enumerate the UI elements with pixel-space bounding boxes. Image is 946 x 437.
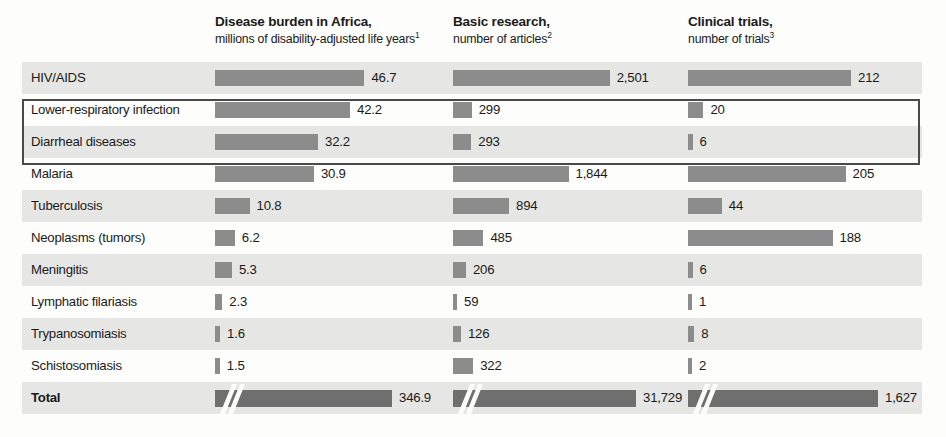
- cell-burden: 10.8: [215, 190, 453, 222]
- cell-trials: 2: [688, 350, 922, 382]
- cell-research: 322: [453, 350, 688, 382]
- bar-burden: [215, 70, 364, 86]
- row-label: Diarrheal diseases: [31, 126, 136, 158]
- bar-value-burden: 46.7: [371, 62, 396, 94]
- bar-value-burden: 1.5: [227, 350, 245, 382]
- cell-burden: 5.3: [215, 254, 453, 286]
- bar-burden: [215, 230, 235, 246]
- bar-burden: [215, 326, 220, 342]
- row-label: HIV/AIDS: [31, 62, 85, 94]
- cell-burden: 346.9: [215, 382, 453, 414]
- cell-trials: 1: [688, 286, 922, 318]
- column-header-research: Basic research, number of articles2: [453, 14, 552, 47]
- bar-value-research: 322: [480, 350, 501, 382]
- cell-trials: 8: [688, 318, 922, 350]
- bar-value-burden: 346.9: [399, 382, 431, 414]
- column-header-research-footnote-marker: 2: [547, 30, 552, 40]
- cell-trials: 212: [688, 62, 922, 94]
- bar-trials: [688, 262, 693, 278]
- cell-research: 299: [453, 94, 688, 126]
- bar-value-trials: 2: [699, 350, 706, 382]
- bar-burden: [215, 358, 220, 374]
- bar-value-research: 894: [516, 190, 537, 222]
- bar-value-trials: 205: [853, 158, 874, 190]
- bar-value-burden: 10.8: [257, 190, 282, 222]
- bar-value-trials: 6: [700, 126, 707, 158]
- cell-burden: 2.3: [215, 286, 453, 318]
- table-row: HIV/AIDS46.72,501212: [22, 62, 922, 94]
- bar-value-trials: 6: [700, 254, 707, 286]
- cell-trials: 20: [688, 94, 922, 126]
- column-header-burden-subtitle-text: millions of disability-adjusted life yea…: [215, 32, 415, 46]
- bar-trials: [688, 70, 851, 86]
- bar-value-research: 2,501: [617, 62, 649, 94]
- cell-trials: 188: [688, 222, 922, 254]
- bar-value-burden: 6.2: [242, 222, 260, 254]
- bar-trials: [688, 102, 703, 118]
- cell-research: 293: [453, 126, 688, 158]
- bar-value-research: 31,729: [643, 382, 682, 414]
- bar-research: [453, 166, 569, 182]
- column-header-burden-title: Disease burden in Africa,: [215, 14, 420, 30]
- bar-research: [453, 198, 509, 214]
- table-row: Lower-respiratory infection42.229920: [22, 94, 922, 126]
- bar-burden: [215, 390, 392, 407]
- cell-burden: 42.2: [215, 94, 453, 126]
- bar-value-trials: 212: [858, 62, 879, 94]
- cell-burden: 32.2: [215, 126, 453, 158]
- row-label: Trypanosomiasis: [31, 318, 126, 350]
- bar-value-research: 1,844: [576, 158, 608, 190]
- cell-research: 206: [453, 254, 688, 286]
- bar-value-burden: 30.9: [321, 158, 346, 190]
- bar-value-trials: 20: [710, 94, 724, 126]
- column-header-trials-title: Clinical trials,: [688, 14, 774, 30]
- cell-trials: 1,627: [688, 382, 922, 414]
- bar-research: [453, 390, 636, 407]
- bar-research: [453, 230, 483, 246]
- table-row: Trypanosomiasis1.61268: [22, 318, 922, 350]
- bar-value-research: 126: [468, 318, 489, 350]
- bar-trials: [688, 390, 878, 407]
- bar-trials: [688, 134, 693, 150]
- column-header-burden-footnote-marker: 1: [415, 30, 420, 40]
- column-header-trials-subtitle-text: number of trials: [688, 32, 770, 46]
- cell-research: 59: [453, 286, 688, 318]
- bar-value-research: 293: [478, 126, 499, 158]
- bar-research: [453, 102, 472, 118]
- bar-trials: [688, 358, 692, 374]
- infographic-table: Disease burden in Africa, millions of di…: [0, 0, 946, 437]
- bar-trials: [688, 166, 846, 182]
- bar-research: [453, 294, 457, 310]
- table-row: Tuberculosis10.889444: [22, 190, 922, 222]
- cell-burden: 1.5: [215, 350, 453, 382]
- column-header-research-subtitle: number of articles2: [453, 31, 552, 47]
- bar-burden: [215, 198, 250, 214]
- bar-research: [453, 70, 610, 86]
- row-label: Total: [31, 382, 60, 414]
- table-body: HIV/AIDS46.72,501212Lower-respiratory in…: [22, 62, 922, 414]
- bar-burden: [215, 102, 350, 118]
- table-row: Neoplasms (tumors)6.2485188: [22, 222, 922, 254]
- bar-research: [453, 262, 466, 278]
- cell-burden: 6.2: [215, 222, 453, 254]
- bar-trials: [688, 326, 694, 342]
- bar-value-trials: 1: [699, 286, 706, 318]
- column-header-trials: Clinical trials, number of trials3: [688, 14, 774, 47]
- cell-research: 31,729: [453, 382, 688, 414]
- column-header-burden: Disease burden in Africa, millions of di…: [215, 14, 420, 47]
- table-row: Meningitis5.32066: [22, 254, 922, 286]
- bar-burden: [215, 134, 318, 150]
- cell-trials: 6: [688, 254, 922, 286]
- bar-value-burden: 32.2: [325, 126, 350, 158]
- cell-research: 485: [453, 222, 688, 254]
- bar-research: [453, 358, 473, 374]
- bar-burden: [215, 294, 222, 310]
- bar-trials: [688, 294, 692, 310]
- cell-burden: 46.7: [215, 62, 453, 94]
- row-label: Lower-respiratory infection: [31, 94, 180, 126]
- bar-burden: [215, 262, 232, 278]
- cell-burden: 30.9: [215, 158, 453, 190]
- bar-value-trials: 44: [729, 190, 743, 222]
- cell-burden: 1.6: [215, 318, 453, 350]
- cell-trials: 44: [688, 190, 922, 222]
